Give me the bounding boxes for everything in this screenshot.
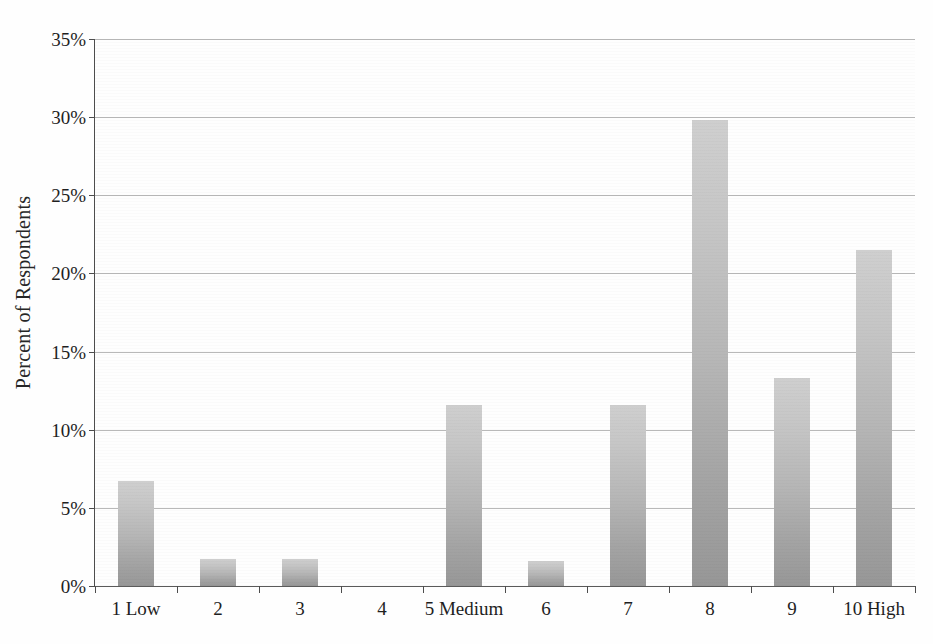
y-tick-mark (89, 195, 95, 196)
bar (528, 561, 564, 586)
x-tick-mark (341, 586, 342, 593)
y-tick-label: 35% (2, 30, 86, 49)
x-tick-label: 7 (623, 598, 633, 620)
plot-area (95, 39, 915, 586)
y-tick-mark (89, 39, 95, 40)
y-tick-mark (89, 508, 95, 509)
x-tick-label: 6 (541, 598, 551, 620)
x-tick-mark (505, 586, 506, 593)
y-tick-mark (89, 352, 95, 353)
y-tick-label: 20% (2, 264, 86, 283)
x-tick-mark (587, 586, 588, 593)
x-tick-label: 2 (213, 598, 223, 620)
y-tick-label: 10% (2, 420, 86, 439)
y-tick-mark (89, 117, 95, 118)
gridline (95, 39, 915, 40)
bar (446, 405, 482, 586)
y-tick-label: 5% (2, 498, 86, 517)
x-tick-mark (833, 586, 834, 593)
bar-chart: Percent of Respondents 0%5%10%15%20%25%3… (0, 0, 933, 644)
y-tick-label: 0% (2, 577, 86, 596)
gridline (95, 352, 915, 353)
x-tick-label: 4 (377, 598, 387, 620)
x-tick-label: 3 (295, 598, 305, 620)
y-tick-label: 25% (2, 186, 86, 205)
x-tick-label: 1 Low (111, 598, 160, 620)
bar (692, 120, 728, 586)
y-tick-mark (89, 430, 95, 431)
bar (774, 378, 810, 586)
y-tick-label: 15% (2, 342, 86, 361)
x-tick-mark (259, 586, 260, 593)
bar (610, 405, 646, 586)
x-tick-mark (751, 586, 752, 593)
x-tick-mark (669, 586, 670, 593)
x-tick-label: 10 High (843, 598, 905, 620)
gridline (95, 273, 915, 274)
bar (282, 559, 318, 586)
gridline (95, 117, 915, 118)
x-tick-mark (423, 586, 424, 593)
bar (200, 559, 236, 586)
x-tick-label: 9 (787, 598, 797, 620)
x-tick-mark (177, 586, 178, 593)
x-tick-label: 8 (705, 598, 715, 620)
y-tick-mark (89, 273, 95, 274)
x-tick-mark (915, 586, 916, 593)
bar (856, 250, 892, 586)
gridline (95, 195, 915, 196)
x-tick-label: 5 Medium (425, 598, 504, 620)
y-tick-label: 30% (2, 108, 86, 127)
x-tick-mark (95, 586, 96, 593)
bar (118, 481, 154, 586)
